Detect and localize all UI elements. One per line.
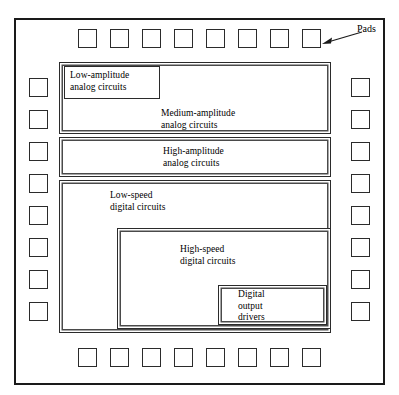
- block-label-medium-amplitude-analog: Medium-amplitude analog circuits: [161, 108, 235, 131]
- pad-left-4: [29, 174, 48, 193]
- pad-top-2: [110, 29, 129, 48]
- pad-bottom-8: [302, 348, 321, 367]
- pad-bottom-3: [142, 348, 161, 367]
- block-label-digital-output-drivers: Digital output drivers: [238, 289, 265, 324]
- pad-right-1: [351, 78, 370, 97]
- pad-left-7: [29, 270, 48, 289]
- pad-right-7: [351, 270, 370, 289]
- pad-bottom-5: [206, 348, 225, 367]
- pad-right-8: [351, 302, 370, 321]
- pad-left-3: [29, 142, 48, 161]
- chip-floorplan-diagram: Medium-amplitude analog circuits Low-amp…: [0, 0, 399, 395]
- pad-left-2: [29, 110, 48, 129]
- pad-top-6: [238, 29, 257, 48]
- pads-annotation-label: Pads: [357, 23, 376, 34]
- pad-right-3: [351, 142, 370, 161]
- pad-bottom-4: [174, 348, 193, 367]
- pad-right-4: [351, 174, 370, 193]
- pad-bottom-7: [270, 348, 289, 367]
- block-label-low-amplitude-analog: Low-amplitude analog circuits: [70, 70, 129, 93]
- pad-right-6: [351, 238, 370, 257]
- pad-left-5: [29, 206, 48, 225]
- block-label-high-amplitude-analog: High-amplitude analog circuits: [163, 146, 224, 169]
- pad-top-3: [142, 29, 161, 48]
- pad-bottom-1: [78, 348, 97, 367]
- pad-top-1: [78, 29, 97, 48]
- pad-right-5: [351, 206, 370, 225]
- block-label-high-speed-digital: High-speed digital circuits: [180, 244, 235, 267]
- pad-bottom-6: [238, 348, 257, 367]
- pad-left-6: [29, 238, 48, 257]
- block-digital-output-drivers: [218, 285, 327, 325]
- pad-top-4: [174, 29, 193, 48]
- pad-left-8: [29, 302, 48, 321]
- pad-bottom-2: [110, 348, 129, 367]
- pad-top-8: [302, 29, 321, 48]
- pad-top-5: [206, 29, 225, 48]
- block-label-low-speed-digital: Low-speed digital circuits: [110, 190, 165, 213]
- pad-left-1: [29, 78, 48, 97]
- pad-right-2: [351, 110, 370, 129]
- pad-top-7: [270, 29, 289, 48]
